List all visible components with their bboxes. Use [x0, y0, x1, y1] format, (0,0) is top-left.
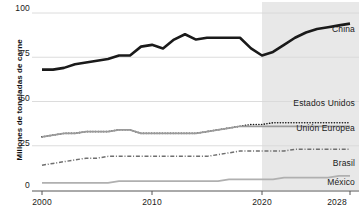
- y-tick-25: 25: [4, 138, 30, 148]
- x-tick-2010: 2010: [132, 197, 172, 207]
- x-tick-2020: 2020: [242, 197, 282, 207]
- x-tick-2000: 2000: [22, 197, 62, 207]
- x-axis-line: [32, 191, 359, 195]
- y-tick-75: 75: [4, 48, 30, 58]
- series-label-brasil: Brasil: [333, 158, 355, 168]
- meat-production-line-chart: Millones de toneladas de carne 100 75 50…: [0, 0, 359, 211]
- x-tick-2028: 2028: [317, 197, 357, 207]
- y-tick-100: 100: [4, 3, 30, 13]
- series-label-union-europea: Unión Europea: [296, 123, 355, 133]
- series-label-china: China: [332, 24, 355, 34]
- series-label-mexico: México: [327, 177, 355, 187]
- y-tick-0: 0: [4, 180, 30, 190]
- series-label-estados-unidos: Estados Unidos: [293, 98, 355, 108]
- y-tick-50: 50: [4, 93, 30, 103]
